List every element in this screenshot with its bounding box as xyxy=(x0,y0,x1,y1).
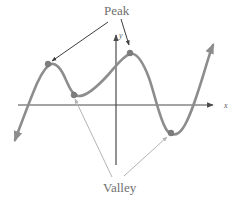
valley-leader-right xyxy=(124,137,167,176)
function-curve xyxy=(15,45,213,140)
y-axis-label: y xyxy=(118,31,123,40)
peak-leader-left xyxy=(52,22,108,61)
peak-label: Peak xyxy=(104,3,130,18)
valley-marker-left xyxy=(71,92,77,98)
valley-leader-left xyxy=(75,99,112,177)
valley-marker-right xyxy=(168,130,174,136)
peak-marker-right xyxy=(127,50,133,56)
x-axis-label: x xyxy=(223,101,228,110)
peak-valley-figure: Peak Valley x y xyxy=(0,0,237,199)
peak-marker-left xyxy=(45,61,51,67)
math-diagram: Peak Valley x y xyxy=(0,0,237,199)
valley-label: Valley xyxy=(103,180,137,195)
